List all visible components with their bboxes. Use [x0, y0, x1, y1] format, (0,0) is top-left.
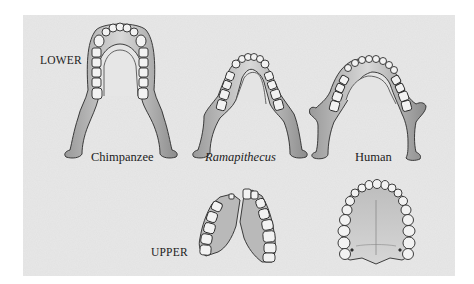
- species-label-ramapithecus: Ramapithecus: [205, 151, 276, 164]
- human-lower-jaw: [309, 56, 426, 161]
- chimpanzee-lower-jaw: [65, 23, 177, 158]
- species-label-chimpanzee: Chimpanzee: [91, 151, 153, 164]
- row-label-upper: UPPER: [151, 247, 188, 259]
- ramapithecus-upper-jaw: [199, 189, 276, 262]
- ramapithecus-lower-jaw: [193, 54, 307, 159]
- species-label-human: Human: [355, 151, 392, 164]
- human-upper-jaw: [338, 180, 415, 265]
- jaw-illustrations: [0, 0, 474, 284]
- row-label-lower: LOWER: [40, 55, 82, 67]
